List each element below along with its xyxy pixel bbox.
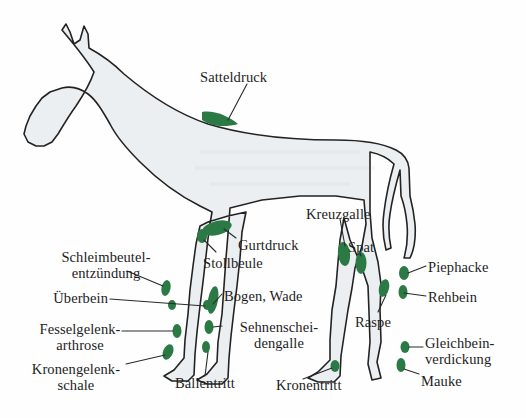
label-kronengelenkschale: Kronengelenk- schale: [26, 362, 126, 393]
label-spat: Spat: [348, 240, 374, 256]
label-mauke: Mauke: [421, 374, 462, 390]
leader-mauke: [404, 369, 419, 374]
leader-piephacke: [408, 266, 426, 273]
marker-bogen-wade: [206, 285, 221, 314]
label-gleichbeinverdickung: Gleichbein- verdickung: [425, 336, 495, 367]
label-fesselgelenkarthrose: Fesselgelenk- arthrose: [38, 322, 122, 353]
label-bogen-wade: Bogen, Wade: [224, 289, 303, 305]
label-stollbeule: Stollbeule: [203, 256, 263, 272]
label-kronentritt: Kronentritt: [276, 378, 342, 394]
label-piephacke: Piephacke: [428, 260, 489, 276]
label-gurtdruck: Gurtdruck: [238, 238, 299, 254]
marker-sehnenscheidengalle: [205, 320, 214, 334]
marker-fesselgelenkarthrose: [173, 324, 182, 338]
label-kreuzgalle: Kreuzgalle: [306, 207, 371, 223]
leader-satteldruck: [228, 84, 247, 120]
marker-gleichbeinverdickung: [401, 341, 410, 353]
marker-kronengelenkschale: [160, 343, 175, 362]
label-satteldruck: Satteldruck: [200, 70, 267, 86]
label-sehnenscheidengalle: Sehnenschei- dengalle: [224, 320, 334, 351]
marker-ballentritt: [202, 341, 210, 353]
label-schleimbeutelentzuendung: Schleimbeutel- entzündung: [41, 250, 171, 281]
marker-mauke: [397, 358, 406, 372]
label-ueberbein: Überbein: [38, 291, 108, 307]
label-raspe: Raspe: [355, 315, 391, 331]
marker-schleimbeutel: [160, 279, 172, 297]
marker-rehbein: [399, 285, 408, 299]
label-ballentritt: Ballentritt: [175, 376, 235, 392]
leader-kronengelenkschale: [126, 355, 165, 364]
label-rehbein: Rehbein: [428, 290, 477, 306]
leader-rehbein: [404, 293, 426, 296]
horse-ailment-diagram-page: Satteldruck Kreuzgalle Gurtdruck Spat St…: [0, 0, 526, 418]
marker-kronentritt: [331, 360, 340, 372]
marker-ueberbein-left: [168, 300, 176, 310]
